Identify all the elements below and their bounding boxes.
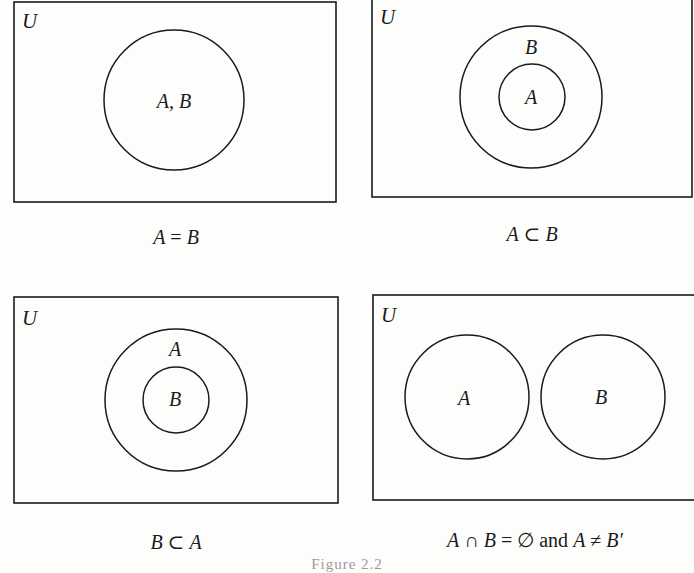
empty-set-symbol: ∅ bbox=[517, 529, 534, 551]
panel-disjoint-sets: U A B bbox=[373, 295, 694, 500]
caption-symbol: B bbox=[187, 226, 199, 248]
caption-operator: ∩ bbox=[459, 529, 483, 551]
caption-operator: ≠ bbox=[585, 529, 606, 551]
caption-symbol: B bbox=[484, 529, 496, 551]
caption-operator: = bbox=[496, 529, 517, 551]
set-label-b: B bbox=[595, 386, 607, 408]
caption-disjoint: A ∩ B = ∅ and A ≠ B′ bbox=[447, 528, 623, 552]
caption-conjunction: and bbox=[534, 529, 573, 551]
caption-symbol: A bbox=[506, 223, 518, 245]
caption-symbol: B′ bbox=[606, 529, 623, 551]
caption-b-subset-a: B ⊂ A bbox=[150, 530, 201, 554]
caption-a-subset-b: A ⊂ B bbox=[506, 222, 557, 246]
universe-label: U bbox=[381, 303, 398, 327]
panel-b-subset-a: U A B bbox=[14, 297, 338, 503]
set-label-b: B bbox=[169, 388, 181, 410]
set-label-a: A bbox=[167, 338, 182, 360]
universe-box bbox=[373, 295, 694, 500]
set-label-b: B bbox=[525, 36, 537, 58]
caption-symbol: A bbox=[573, 529, 585, 551]
caption-symbol: A bbox=[189, 531, 201, 553]
caption-symbol: A bbox=[153, 226, 165, 248]
panel-a-equals-b: U A, B bbox=[14, 2, 336, 202]
universe-label: U bbox=[22, 306, 39, 330]
universe-label: U bbox=[380, 5, 397, 29]
set-label-a-b: A, B bbox=[155, 90, 191, 112]
caption-symbol: B bbox=[545, 223, 557, 245]
caption-symbol: B bbox=[150, 531, 162, 553]
caption-symbol: A bbox=[447, 529, 459, 551]
universe-label: U bbox=[22, 9, 39, 33]
caption-operator: = bbox=[165, 226, 186, 248]
panel-a-subset-b: U B A bbox=[372, 0, 692, 197]
caption-operator: ⊂ bbox=[163, 531, 190, 553]
set-label-a: A bbox=[523, 86, 538, 108]
caption-operator: ⊂ bbox=[519, 223, 546, 245]
figure-caption: Figure 2.2 bbox=[311, 556, 383, 573]
caption-a-equals-b: A = B bbox=[153, 226, 199, 249]
set-label-a: A bbox=[456, 387, 471, 409]
